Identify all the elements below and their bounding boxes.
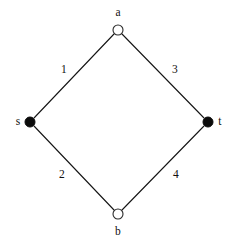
node-s	[25, 117, 35, 127]
nodes-group	[25, 25, 213, 219]
node-t	[203, 117, 213, 127]
edge-label-4: 4	[173, 169, 179, 181]
edge-s-b	[34, 126, 114, 210]
graph-svg	[0, 0, 236, 249]
edge-label-3: 3	[172, 64, 178, 76]
node-label-b: b	[115, 226, 121, 238]
node-a	[113, 25, 123, 35]
node-label-s: s	[16, 116, 21, 128]
diagram-canvas: a s t b 1 3 2 4	[0, 0, 236, 249]
node-label-t: t	[218, 116, 221, 128]
node-label-a: a	[115, 7, 120, 19]
node-b	[113, 209, 123, 219]
edge-b-t	[122, 126, 204, 210]
edge-label-1: 1	[61, 64, 67, 76]
edges-group	[34, 34, 204, 210]
edge-s-a	[34, 34, 114, 118]
edge-label-2: 2	[59, 169, 65, 181]
edge-a-t	[122, 34, 204, 118]
